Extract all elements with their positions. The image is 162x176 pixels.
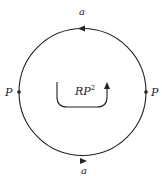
right-point-label: P	[150, 86, 159, 99]
rp2-diagram: a a P P RP2	[0, 0, 162, 176]
center-label-superscript: 2	[91, 84, 95, 92]
bottom-edge-label: a	[81, 165, 87, 176]
orientation-arrowhead-icon	[104, 82, 110, 89]
left-point-dot	[17, 90, 21, 94]
center-label-base: RP	[74, 85, 91, 98]
top-edge-arrow-icon	[78, 26, 85, 32]
center-label: RP2	[74, 84, 95, 98]
left-point-label: P	[4, 86, 13, 99]
top-edge-label: a	[79, 6, 85, 17]
bottom-edge-arrow-icon	[80, 158, 87, 164]
right-point-dot	[144, 90, 148, 94]
